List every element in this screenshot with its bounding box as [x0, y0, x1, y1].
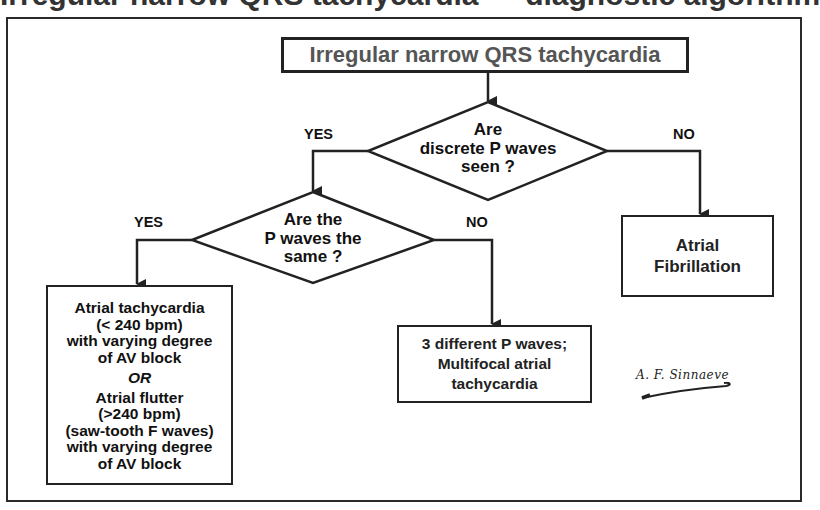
outcome-line: Atrial flutter — [96, 390, 184, 407]
outcome-line: (< 240 bpm) — [96, 317, 183, 334]
decision1-yes-label: YES — [304, 126, 333, 142]
outcome-multifocal-atrial-tachycardia: 3 different P waves; Multifocal atrial t… — [397, 325, 592, 403]
decision1-question: Are discrete P waves seen ? — [398, 121, 578, 177]
outcome-line: Multifocal atrial — [438, 354, 552, 374]
start-node: Irregular narrow QRS tachycardia — [281, 37, 689, 73]
outcome-line: of AV block — [98, 350, 182, 367]
arrow-decision1-no — [607, 151, 700, 214]
outcome-line: Fibrillation — [654, 256, 741, 277]
outcome-line: with varying degree — [67, 439, 213, 456]
decision1-line: discrete P waves — [398, 140, 578, 159]
decision1-line: seen ? — [398, 158, 578, 177]
outcome-line: (saw-tooth F waves) — [65, 423, 213, 440]
decision2-line: Are the — [223, 211, 403, 230]
decision2-no-label: NO — [466, 214, 488, 230]
arrow-decision2-yes — [137, 240, 192, 284]
outcome-line: with varying degree — [67, 333, 213, 350]
arrow-decision2-no — [434, 240, 492, 324]
decision2-yes-label: YES — [134, 214, 163, 230]
outcome-atrial-tachycardia-or-flutter: Atrial tachycardia (< 240 bpm) with vary… — [46, 285, 233, 485]
or-separator: OR — [128, 370, 151, 387]
arrow-decision1-yes — [313, 151, 368, 191]
outcome-line: tachycardia — [451, 374, 537, 394]
decision2-question: Are the P waves the same ? — [223, 211, 403, 267]
outcome-line: Atrial tachycardia — [74, 300, 204, 317]
decision2-line: same ? — [223, 248, 403, 267]
decision1-line: Are — [398, 121, 578, 140]
outcome-line: 3 different P waves; — [422, 334, 567, 354]
outcome-line: Atrial — [676, 235, 719, 256]
outcome-line: of AV block — [98, 456, 182, 473]
outcome-line: (>240 bpm) — [98, 406, 180, 423]
start-node-label: Irregular narrow QRS tachycardia — [310, 42, 661, 68]
outcome-atrial-fibrillation: Atrial Fibrillation — [621, 215, 774, 297]
signature-flourish-icon — [640, 382, 732, 400]
decision2-line: P waves the — [223, 230, 403, 249]
author-signature: A. F. Sinnaeve — [636, 368, 729, 382]
decision1-no-label: NO — [673, 126, 695, 142]
